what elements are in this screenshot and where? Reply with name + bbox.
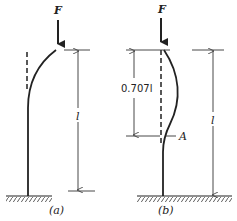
- buckling-column-diagram: F l (a) F A 0.707l: [0, 0, 237, 221]
- deflected-column-b: [163, 50, 178, 196]
- point-a-label: A: [178, 130, 187, 143]
- caption-b: (b): [158, 204, 174, 217]
- force-label-a: F: [53, 4, 63, 17]
- panel-a: F l (a): [6, 4, 95, 217]
- force-label-b: F: [157, 3, 167, 16]
- ground-hatch-a: [6, 197, 52, 202]
- partial-length-label: 0.707l: [121, 83, 152, 94]
- ground-hatch-b: [137, 197, 232, 202]
- panel-b: F A 0.707l l (b): [121, 3, 232, 217]
- deflected-column-a: [28, 50, 56, 196]
- length-label-b: l: [211, 114, 215, 127]
- length-label-a: l: [76, 110, 80, 123]
- caption-a: (a): [49, 204, 64, 217]
